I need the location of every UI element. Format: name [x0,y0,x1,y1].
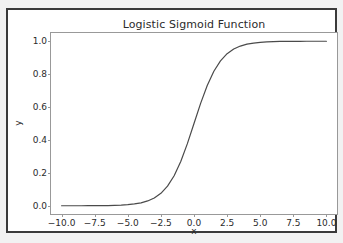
x-axis-tick-mark [95,214,96,217]
x-axis-label: x [50,226,338,236]
y-axis-tick-mark [48,107,51,108]
y-axis-tick-mark [48,173,51,174]
y-axis-tick-label: 0.0 [33,201,47,211]
x-axis-tick-mark [326,214,327,217]
y-axis-tick-label: 0.2 [33,168,47,178]
x-axis-tick-mark [293,214,294,217]
sigmoid-curve-svg [51,33,337,214]
x-axis-tick-mark [260,214,261,217]
y-axis-tick-mark [48,41,51,42]
y-axis-tick-mark [48,206,51,207]
plot-area: 0.00.20.40.60.81.0−10.0−7.5−5.0−2.50.02.… [50,32,338,215]
x-axis-tick-mark [161,214,162,217]
y-axis-label: y [13,120,23,125]
figure-canvas: Logistic Sigmoid Function 0.00.20.40.60.… [0,0,343,243]
x-axis-tick-mark [194,214,195,217]
x-axis-tick-mark [227,214,228,217]
y-axis-tick-label: 0.4 [33,135,47,145]
y-axis-tick-label: 0.6 [33,102,47,112]
y-axis-tick-label: 1.0 [33,36,47,46]
x-axis-tick-mark [62,214,63,217]
figure-frame: Logistic Sigmoid Function 0.00.20.40.60.… [6,8,337,233]
page-title: Logistic Sigmoid Function [50,18,338,31]
y-axis-tick-mark [48,74,51,75]
sigmoid-curve [62,41,327,206]
x-axis-tick-mark [128,214,129,217]
y-axis-tick-mark [48,140,51,141]
y-axis-tick-label: 0.8 [33,69,47,79]
